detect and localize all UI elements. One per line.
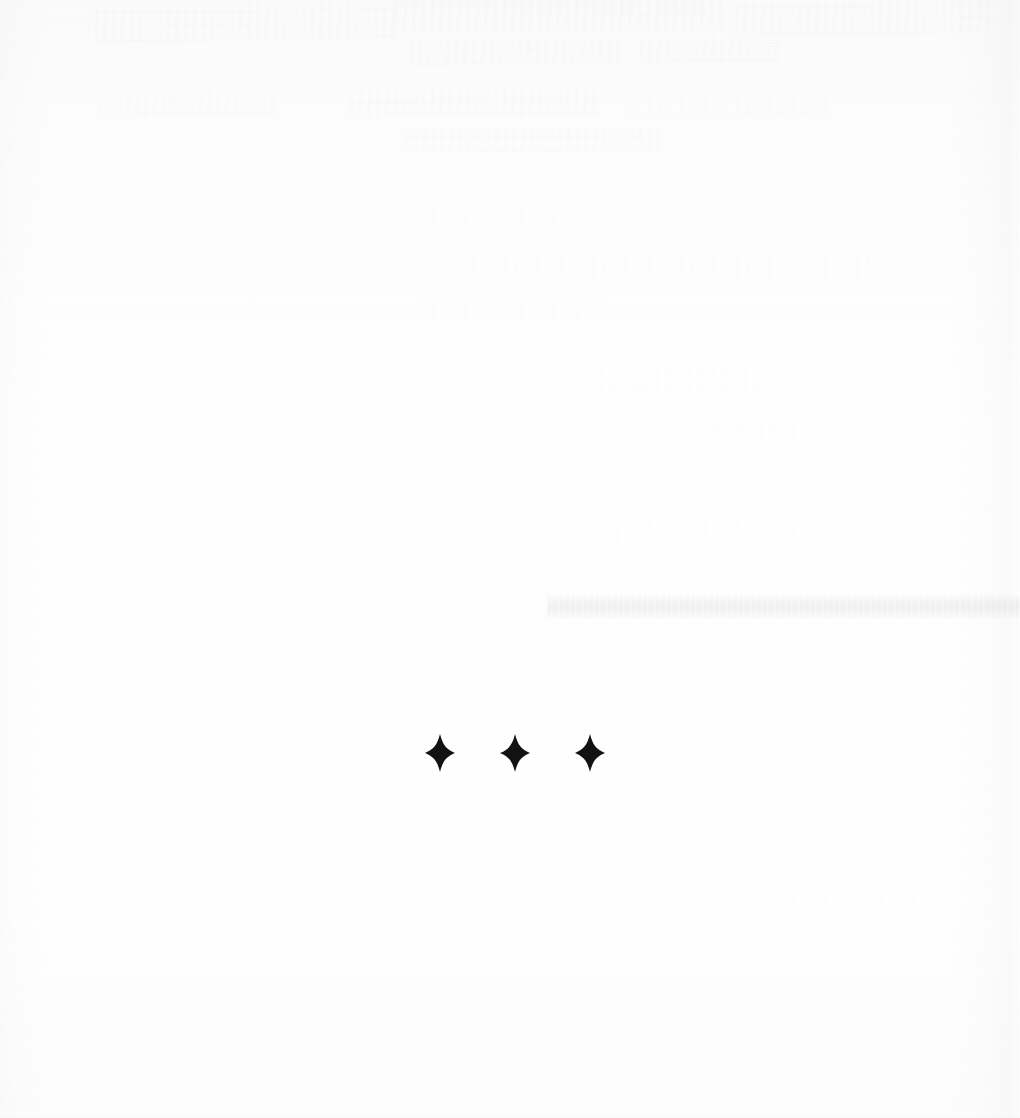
paper-background [0, 0, 1020, 1118]
four-pointed-star-icon [500, 734, 530, 772]
four-pointed-star-icon [575, 734, 605, 772]
four-pointed-star-icon [425, 734, 455, 772]
scanned-page [0, 0, 1020, 1118]
dinkus-ornament [425, 734, 605, 772]
